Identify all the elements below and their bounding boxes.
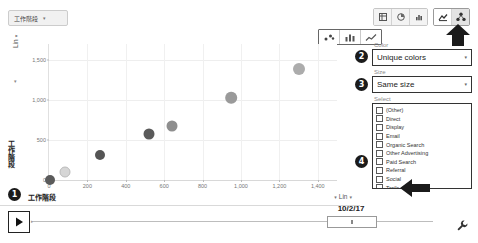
x-axis-tick-label: 1,000 — [234, 183, 248, 189]
metric-dropdown[interactable]: 工作階段 ▾ — [8, 10, 68, 26]
chevron-down-icon: ▾ — [464, 55, 467, 60]
y-axis-options-caret[interactable]: ▾ — [14, 78, 17, 84]
timeline-controls: ▸ 10/2/17 — [0, 205, 478, 237]
color-select-value: Unique colors — [377, 53, 426, 62]
select-list-item-label: Trails — [386, 185, 399, 189]
checkbox-icon[interactable] — [376, 150, 383, 157]
bar-view-button[interactable] — [410, 9, 427, 25]
y-axis-scale-caret: ▾ — [13, 35, 19, 38]
checkbox-icon[interactable] — [376, 167, 383, 174]
select-list-item[interactable]: Direct — [376, 115, 468, 124]
select-list-item-label: (Other) — [386, 107, 403, 113]
motion-chart-view-button[interactable] — [452, 9, 469, 25]
x-axis-tick-label: 1,200 — [273, 183, 287, 189]
gridline-vertical — [164, 44, 165, 180]
select-list-item[interactable]: Email — [376, 132, 468, 141]
select-list-item-label: Organic Search — [386, 142, 424, 148]
size-select[interactable]: Same size ▾ — [372, 76, 472, 93]
color-select[interactable]: Unique colors ▾ — [372, 49, 472, 66]
x-axis-title: 工作階段 — [28, 192, 56, 202]
select-list-item[interactable]: Organic Search — [376, 140, 468, 149]
motion-chart-icon — [456, 12, 466, 22]
annotation-badge-2: 2 — [355, 50, 368, 63]
checkbox-icon[interactable] — [376, 158, 383, 165]
x-axis-scale-value: Lin — [339, 193, 348, 200]
checkbox-icon[interactable] — [376, 115, 383, 122]
plot-grid: 05001,0001,50002004006008001,0001,2001,4… — [48, 44, 337, 181]
gridline-vertical — [203, 44, 204, 180]
checkbox-icon[interactable] — [376, 184, 383, 189]
x-axis-tick-label: 800 — [198, 183, 207, 189]
y-axis-tick-mark — [47, 60, 49, 61]
settings-wrench-button[interactable] — [457, 217, 468, 235]
color-field-label: Color — [374, 42, 472, 48]
annotation-badge-4: 4 — [355, 155, 368, 168]
scatter-point[interactable] — [60, 167, 71, 178]
checkbox-icon[interactable] — [376, 124, 383, 131]
pivot-icon — [438, 13, 448, 22]
y-axis-scale-selector[interactable]: Lin▾ — [12, 35, 19, 48]
x-axis-tick-mark — [87, 180, 88, 182]
scatter-point[interactable] — [95, 150, 105, 160]
x-axis-tick-label: 200 — [83, 183, 92, 189]
checkbox-icon[interactable] — [376, 176, 383, 183]
select-list-item-label: Email — [386, 133, 400, 139]
settings-panel: Color Unique colors ▾ Size Same size ▾ S… — [372, 42, 472, 189]
select-list-item[interactable]: (Other) — [376, 106, 468, 115]
x-axis-tick-mark — [164, 180, 165, 182]
table-view-button[interactable] — [374, 9, 392, 25]
x-axis-tick-mark — [126, 180, 127, 182]
y-axis-scale-value: Lin — [12, 39, 19, 48]
bar-icon — [415, 13, 423, 21]
select-list-item[interactable]: Other Advertising — [376, 149, 468, 158]
table-icon — [379, 13, 387, 21]
y-axis-tick-mark — [47, 100, 49, 101]
x-axis-options-caret: ▾ — [334, 194, 337, 200]
x-axis-scale-selector[interactable]: ▾Lin▾ — [332, 193, 354, 200]
y-axis-tick-label: 1,500 — [32, 57, 46, 63]
x-axis-tick-mark — [318, 180, 319, 182]
gridline-vertical — [241, 44, 242, 180]
gridline-vertical — [87, 44, 88, 180]
y-axis-title: 工作階段 — [6, 140, 16, 168]
select-listbox[interactable]: (Other)DirectDisplayEmailOrganic SearchO… — [372, 103, 472, 189]
annotation-arrow-trails — [400, 178, 430, 202]
select-list-item-label: Social — [386, 176, 401, 182]
scatter-point[interactable] — [293, 63, 305, 75]
pie-view-button[interactable] — [392, 9, 410, 25]
scatter-point[interactable] — [45, 175, 55, 185]
gridline-horizontal — [49, 100, 337, 101]
select-list-item[interactable]: Paid Search — [376, 158, 468, 167]
annotation-badge-1: 1 — [8, 188, 21, 201]
metric-dropdown-label: 工作階段 — [14, 14, 38, 23]
wrench-icon — [457, 220, 468, 231]
chevron-down-icon: ▾ — [464, 82, 467, 87]
gridline-vertical — [318, 44, 319, 180]
select-list-item[interactable]: Referral — [376, 166, 468, 175]
gridline-vertical — [126, 44, 127, 180]
pivot-view-button[interactable] — [434, 9, 452, 25]
checkbox-icon[interactable] — [376, 133, 383, 140]
timeline-handle[interactable] — [327, 216, 377, 228]
chevron-down-icon: ▾ — [43, 16, 46, 21]
scatter-point[interactable] — [226, 92, 238, 104]
checkbox-icon[interactable] — [376, 141, 383, 148]
size-select-value: Same size — [377, 80, 414, 89]
checkbox-icon[interactable] — [376, 107, 383, 114]
pie-icon — [397, 13, 405, 21]
scatter-point[interactable] — [143, 128, 154, 139]
scatter-plot: Lin▾ ▾ 工作階段 05001,0001,50002004006008001… — [0, 40, 360, 190]
y-axis-tick-mark — [47, 140, 49, 141]
x-axis-scale-caret: ▾ — [349, 194, 352, 200]
x-axis-tick-label: 1,400 — [311, 183, 325, 189]
select-list-item[interactable]: Display — [376, 123, 468, 132]
scatter-point[interactable] — [166, 120, 177, 131]
select-list-item-label: Other Advertising — [386, 150, 428, 156]
gridline-horizontal — [49, 140, 337, 141]
play-icon — [15, 217, 24, 227]
play-button[interactable] — [8, 211, 30, 233]
view-button-group — [373, 8, 428, 26]
handle-grip — [351, 220, 353, 224]
size-field-label: Size — [374, 69, 472, 75]
gridline-vertical — [279, 44, 280, 180]
